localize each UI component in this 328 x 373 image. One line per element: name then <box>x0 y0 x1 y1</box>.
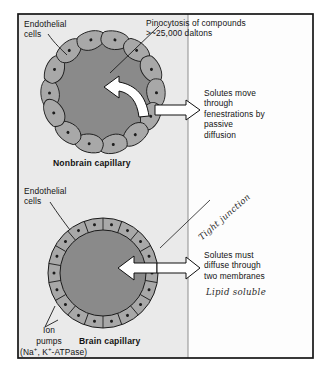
label-pinocytosis: Pinocytosis of compounds >~25,000 dalton… <box>146 18 278 39</box>
caption-brain-capillary: Brain capillary <box>79 336 173 346</box>
label-endothelial-cells-bottom: Endothelial cells <box>24 186 102 207</box>
label-ion-pumps-line2: pumps <box>22 336 76 346</box>
formula-atpase: -ATPase) <box>52 347 88 357</box>
caption-nonbrain-capillary: Nonbrain capillary <box>53 158 159 168</box>
annotation-lipid-soluble: Lipid soluble <box>206 287 266 297</box>
figure-container: Endothelial cells Pinocytosis of compoun… <box>0 0 328 373</box>
label-solutes-diffuse-membranes: Solutes must diffuse through two membran… <box>204 250 296 281</box>
label-endothelial-cells-top: Endothelial cells <box>24 19 102 40</box>
formula-k-mid: , K <box>37 347 48 357</box>
label-solutes-move-fenestrations: Solutes move through fenestrations by pa… <box>204 88 292 140</box>
label-ion-pumps-formula: (Na+, K+-ATPase) <box>20 347 87 357</box>
formula-na-pre: (Na <box>20 347 34 357</box>
label-ion-pumps-line1: Ion <box>28 325 70 335</box>
